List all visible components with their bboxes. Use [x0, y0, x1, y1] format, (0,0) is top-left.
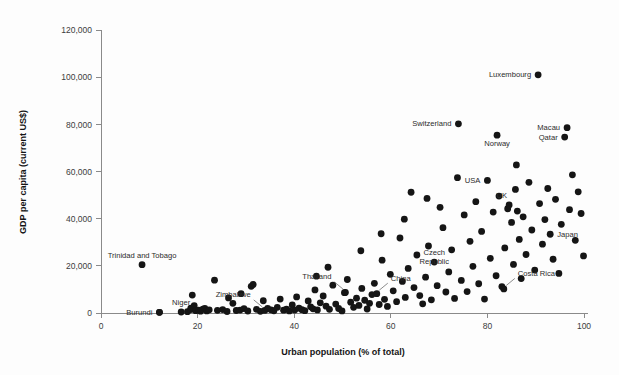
country-label: Japan: [557, 230, 578, 239]
x-tick-label: 80: [483, 321, 493, 331]
scatter-point: [494, 132, 501, 139]
scatter-point: [464, 288, 471, 295]
country-label: Norway: [484, 139, 510, 148]
scatter-point: [139, 261, 146, 268]
scatter-point: [317, 299, 324, 306]
scatter-point: [211, 277, 218, 284]
scatter-point: [301, 307, 308, 314]
scatter-point: [526, 179, 533, 186]
scatter-point: [305, 298, 312, 305]
scatter-point: [378, 230, 385, 237]
scatter-point: [384, 303, 391, 310]
y-tick-label: 0: [87, 308, 92, 318]
scatter-point: [461, 211, 468, 218]
scatter-point: [487, 255, 494, 262]
scatter-point: [424, 195, 431, 202]
scatter-point: [514, 208, 521, 215]
scatter-point: [523, 251, 530, 258]
scatter-point: [320, 293, 327, 300]
country-label: Niger: [172, 298, 191, 307]
scatter-point: [467, 238, 474, 245]
scatter-point: [566, 206, 573, 213]
country-label: China: [391, 274, 412, 283]
x-tick-label: 100: [577, 321, 591, 331]
scatter-point: [390, 287, 397, 294]
scatter-point: [539, 241, 546, 248]
scatter-point: [339, 308, 346, 315]
country-label: Thailand: [302, 272, 331, 281]
scatter-point: [422, 274, 429, 281]
country-label: Qatar: [539, 133, 558, 142]
scatter-point: [500, 286, 507, 293]
scatter-point: [580, 253, 587, 260]
scatter-point: [376, 301, 383, 308]
scatter-point: [224, 308, 231, 315]
scatter-point: [419, 300, 426, 307]
country-label: Trinidad and Tobago: [108, 251, 177, 260]
scatter-point: [536, 200, 543, 207]
scatter-point: [401, 216, 408, 223]
country-label: Republic: [419, 257, 449, 266]
scatter-point: [506, 202, 513, 209]
scatter-point: [260, 297, 267, 304]
scatter-point: [325, 264, 332, 271]
scatter-point: [405, 265, 412, 272]
scatter-chart-figure: 020,00040,00060,00080,000100,000120,0000…: [0, 0, 619, 375]
x-tick-label: 0: [99, 321, 104, 331]
y-tick-label: 80,000: [66, 120, 92, 130]
scatter-point: [578, 210, 585, 217]
scatter-point: [314, 306, 321, 313]
scatter-point: [510, 261, 517, 268]
scatter-point: [451, 295, 458, 302]
scatter-point: [508, 219, 515, 226]
scatter-point: [342, 289, 349, 296]
scatter-point: [437, 204, 444, 211]
country-label: UK: [497, 191, 508, 200]
scatter-point: [274, 304, 281, 311]
scatter-point: [475, 280, 482, 287]
scatter-point: [393, 298, 400, 305]
scatter-point: [558, 221, 565, 228]
scatter-point: [552, 196, 559, 203]
y-tick-label: 100,000: [61, 72, 92, 82]
scatter-point: [371, 280, 378, 287]
scatter-point: [244, 308, 251, 315]
scatter-point: [501, 245, 508, 252]
scatter-point: [448, 246, 455, 253]
x-tick-label: 40: [289, 321, 299, 331]
scatter-point: [458, 277, 465, 284]
scatter-point: [472, 198, 479, 205]
scatter-point: [434, 282, 441, 289]
scatter-point: [528, 227, 535, 234]
scatter-point: [520, 213, 527, 220]
label-leader-line: [506, 278, 515, 285]
scatter-point: [478, 228, 485, 235]
scatter-point: [366, 300, 373, 307]
scatter-point: [440, 224, 447, 231]
scatter-point: [397, 235, 404, 242]
country-label: USA: [465, 176, 482, 185]
scatter-point: [229, 300, 236, 307]
y-tick-label: 120,000: [61, 25, 92, 35]
scatter-point: [358, 285, 365, 292]
scatter-point: [564, 124, 571, 131]
scatter-point: [569, 171, 576, 178]
y-tick-label: 20,000: [66, 261, 92, 271]
scatter-point: [516, 236, 523, 243]
scatter-point: [381, 296, 388, 303]
scatter-point: [379, 257, 386, 264]
y-axis-title: GDP per capita (current US$): [18, 110, 28, 234]
scatter-point: [561, 134, 568, 141]
scatter-point: [490, 209, 497, 216]
scatter-point: [411, 284, 418, 291]
scatter-point: [408, 189, 415, 196]
scatter-point: [512, 186, 519, 193]
scatter-point: [513, 161, 520, 168]
scatter-point: [541, 216, 548, 223]
scatter-point: [575, 188, 582, 195]
scatter-point: [250, 281, 257, 288]
scatter-point: [156, 309, 163, 316]
chart-canvas: 020,00040,00060,00080,000100,000120,0000…: [0, 0, 619, 375]
data-points: [139, 71, 587, 315]
country-label: Switzerland: [412, 119, 451, 128]
